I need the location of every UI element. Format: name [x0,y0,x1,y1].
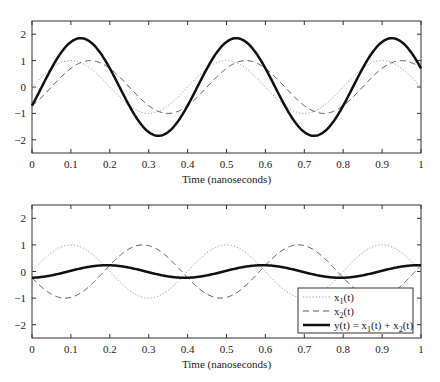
top-y-tick-label: −1 [14,107,26,119]
top-x-tick-label: 0.3 [142,158,156,170]
top-y-tick-label: −2 [14,134,26,146]
top-y-tick-label: 1 [21,55,27,67]
bottom-x-tick-label: 0.3 [142,343,156,355]
bottom-plot-panel: 00.10.20.30.40.50.60.70.80.91−2−1012 Tim… [14,205,423,371]
bottom-y-tick-label: −1 [14,292,26,304]
top-x-tick-label: 0.6 [259,158,273,170]
bottom-x-tick-label: 0 [29,343,35,355]
bottom-y-tick-label: −2 [14,319,26,331]
bottom-x-tick-label: 0.8 [336,343,350,355]
bottom-x-tick-label: 0.4 [181,343,195,355]
top-x-tick-label: 0.1 [64,158,78,170]
top-y-tick-label: 0 [21,81,27,93]
bottom-y-tick-label: 0 [21,266,27,278]
legend: x1(t) x2(t) y(t) = x1(t) + x2(t) [298,288,413,334]
top-x-axis-label: Time (nanoseconds) [182,173,271,186]
top-x-tick-label: 0 [29,158,35,170]
top-x-tick-label: 0.8 [336,158,350,170]
bottom-y-tick-label: 2 [21,212,27,224]
bottom-x-tick-label: 0.1 [64,343,78,355]
top-x-tick-label: 0.7 [297,158,311,170]
figure: 00.10.20.30.40.50.60.70.80.91−2−1012 Tim… [0,0,440,382]
top-x-tick-label: 0.5 [220,158,234,170]
top-y-tick-label: 2 [21,28,27,40]
bottom-x-tick-label: 0.6 [259,343,273,355]
top-x-tick-label: 0.4 [181,158,195,170]
bottom-x-tick-label: 1 [418,343,424,355]
top-ticks: 00.10.20.30.40.50.60.70.80.91−2−1012 [14,21,423,170]
bottom-x-tick-label: 0.9 [375,343,389,355]
bottom-series-y [32,265,421,278]
top-x-tick-label: 1 [418,158,424,170]
bottom-x-axis-label: Time (nanoseconds) [182,358,271,371]
top-x-tick-label: 0.9 [375,158,389,170]
top-series-group [32,38,421,136]
bottom-x-tick-label: 0.7 [297,343,311,355]
top-plot-panel: 00.10.20.30.40.50.60.70.80.91−2−1012 Tim… [14,21,423,186]
bottom-x-tick-label: 0.2 [103,343,117,355]
bottom-x-tick-label: 0.5 [220,343,234,355]
bottom-y-tick-label: 1 [21,239,27,251]
top-x-tick-label: 0.2 [103,158,117,170]
